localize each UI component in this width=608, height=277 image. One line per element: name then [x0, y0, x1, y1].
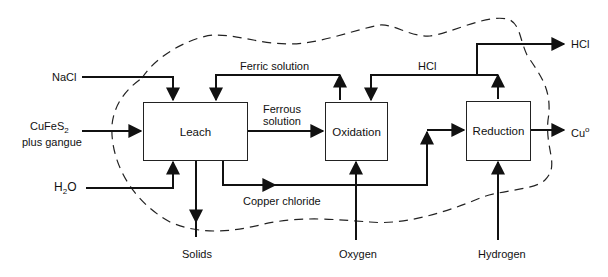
leach-unit: Leach: [143, 102, 248, 161]
oxidation-unit: Oxidation: [325, 102, 388, 161]
h2o-o: O: [67, 180, 76, 194]
nacl-label: NaCl: [52, 71, 76, 83]
h2o-stream: [86, 162, 173, 188]
cu-superscript: o: [585, 125, 589, 134]
copper-chloride-stream: [223, 160, 275, 185]
cu-text: Cu: [571, 127, 585, 139]
oxidation-label: Oxidation: [332, 126, 381, 138]
nacl-stream: [82, 77, 173, 100]
gangue-label: plus gangue: [22, 136, 82, 148]
oxygen-label: Oxygen: [339, 248, 377, 260]
hydrogen-label: Hydrogen: [478, 248, 526, 260]
ferrous-label-line2: solution: [263, 115, 301, 127]
copper-chloride-label: Copper chloride: [243, 195, 321, 207]
leach-label: Leach: [180, 126, 211, 138]
ferric-solution-label: Ferric solution: [240, 60, 309, 72]
hcl-out-stream: [477, 44, 564, 75]
cufes2-label: CuFeS2: [30, 120, 69, 137]
solids-label: Solids: [182, 248, 212, 260]
h2o-label: H2O: [54, 181, 76, 198]
hcl-out-label: HCl: [571, 38, 589, 50]
reduction-unit: Reduction: [466, 101, 531, 161]
cufes2-text: CuFeS: [30, 120, 64, 132]
reduction-label: Reduction: [473, 125, 525, 137]
h2o-h: H: [54, 180, 63, 194]
hcl-recycle-label: HCl: [418, 60, 436, 72]
cu-out-label: Cuo: [571, 124, 590, 139]
cufes2-subscript: 2: [64, 126, 68, 135]
ferrous-label-line1: Ferrous: [263, 103, 301, 115]
